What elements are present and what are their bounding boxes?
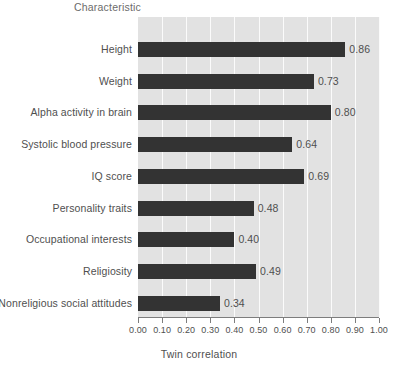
category-label: Weight: [99, 75, 132, 87]
x-axis-tick: [355, 318, 356, 323]
category-label: Systolic blood pressure: [21, 138, 132, 150]
bar: [138, 169, 304, 184]
x-axis-tick: [283, 318, 284, 323]
category-label: Height: [101, 43, 132, 55]
value-label: 0.49: [260, 265, 281, 277]
x-axis-tick-label: 0.10: [153, 325, 171, 335]
value-label: 0.69: [308, 170, 329, 182]
x-axis-tick: [138, 318, 139, 323]
x-axis-tick: [186, 318, 187, 323]
category-label: Religiosity: [83, 265, 132, 277]
bar: [138, 232, 234, 247]
x-axis-tick: [331, 318, 332, 323]
category-label: IQ score: [92, 170, 132, 182]
bar: [138, 137, 292, 152]
value-label: 0.40: [238, 233, 259, 245]
bar: [138, 105, 331, 120]
gridline: [355, 17, 356, 317]
x-axis-tick: [162, 318, 163, 323]
category-label: Alpha activity in brain: [30, 106, 132, 118]
bar: [138, 264, 256, 279]
x-axis-tick: [234, 318, 235, 323]
category-label: Personality traits: [53, 202, 132, 214]
x-axis-tick-label: 1.00: [370, 325, 388, 335]
gridline: [283, 17, 284, 317]
x-axis-tick-label: 0.50: [250, 325, 268, 335]
twin-correlation-bar-chart: Characteristic HeightWeightAlpha activit…: [0, 0, 398, 368]
category-axis-title: Characteristic: [74, 1, 141, 13]
x-axis-tick: [210, 318, 211, 323]
x-axis-tick-label: 0.20: [177, 325, 195, 335]
x-axis-tick-label: 0.60: [274, 325, 292, 335]
bar: [138, 74, 314, 89]
bar: [138, 201, 254, 216]
x-axis-tick: [307, 318, 308, 323]
value-label: 0.73: [318, 75, 339, 87]
gridline: [379, 17, 380, 317]
x-axis-tick-label: 0.90: [346, 325, 364, 335]
value-label: 0.64: [296, 138, 317, 150]
gridline: [307, 17, 308, 317]
x-axis-title: Twin correlation: [0, 348, 398, 360]
value-label: 0.48: [258, 202, 279, 214]
bar: [138, 42, 345, 57]
category-label: Occupational interests: [26, 233, 132, 245]
x-axis-tick-label: 0.80: [322, 325, 340, 335]
x-axis-tick-label: 0.30: [201, 325, 219, 335]
gridline: [331, 17, 332, 317]
value-label: 0.86: [349, 43, 370, 55]
value-label: 0.80: [335, 106, 356, 118]
x-axis-tick: [259, 318, 260, 323]
x-axis-tick-label: 0.40: [225, 325, 243, 335]
x-axis-tick: [379, 318, 380, 323]
x-axis-tick-label: 0.00: [129, 325, 147, 335]
x-axis-tick-label: 0.70: [298, 325, 316, 335]
category-label: Nonreligious social attitudes: [0, 297, 132, 309]
value-label: 0.34: [224, 297, 245, 309]
bar: [138, 296, 220, 311]
